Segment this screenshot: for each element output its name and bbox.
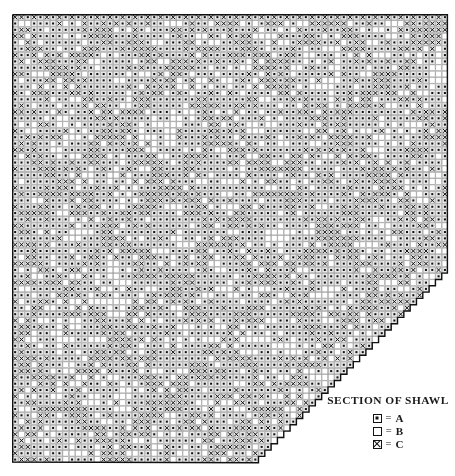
legend-item-c: = C <box>373 438 404 450</box>
legend-rows: = A = B = C <box>325 412 451 450</box>
legend-equals-a: = <box>386 412 392 424</box>
legend-item-b: = B <box>373 425 403 437</box>
legend-label-a: A <box>395 412 403 424</box>
dot-in-square-symbol <box>373 414 382 423</box>
legend-label-c: C <box>395 438 403 450</box>
shawl-chart: SECTION OF SHAWL = A = B = C <box>0 0 455 476</box>
legend-label-b: B <box>396 425 403 437</box>
legend-equals-c: = <box>386 438 392 450</box>
legend-item-a: = A <box>373 412 404 424</box>
legend-equals-b: = <box>386 425 392 437</box>
legend-title: SECTION OF SHAWL <box>325 394 451 406</box>
empty-square-symbol <box>373 427 382 436</box>
cross-in-square-symbol <box>373 440 382 449</box>
legend: SECTION OF SHAWL = A = B = C <box>325 394 451 450</box>
